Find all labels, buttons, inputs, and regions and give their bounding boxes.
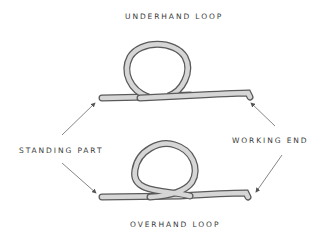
knot-diagram: UNDERHAND LOOP STANDING PART WORKING END… — [0, 0, 322, 237]
underhand-loop-rope — [102, 44, 250, 98]
arrow-standing-top — [62, 103, 95, 135]
working-end-label: WORKING END — [232, 136, 309, 145]
overhand-loop-rope — [102, 144, 248, 197]
arrow-working-top — [251, 103, 275, 126]
rope-illustration — [0, 0, 322, 237]
standing-part-label: STANDING PART — [19, 146, 103, 155]
arrow-working-bottom — [256, 155, 282, 192]
underhand-loop-title: UNDERHAND LOOP — [125, 12, 223, 21]
overhand-loop-title: OVERHAND LOOP — [130, 220, 220, 229]
arrow-standing-bottom — [62, 163, 96, 193]
